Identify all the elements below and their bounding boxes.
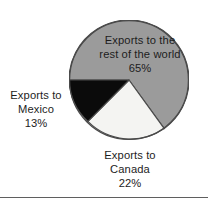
pie-chart-figure: Exports to the rest of the world 65% Exp… [0,0,208,208]
slice-label-canada: Exports to Canada 22% [84,148,176,190]
slice-label-rest-of-world: Exports to the rest of the world 65% [88,33,192,75]
bottom-margin-strip [0,198,208,208]
slice-label-mexico: Exports to Mexico 13% [2,88,70,130]
